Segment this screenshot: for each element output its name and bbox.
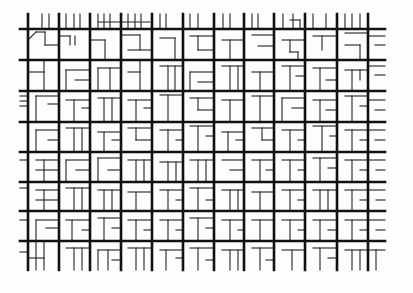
background: [0, 0, 413, 293]
abstract-grid-drawing: [0, 0, 413, 293]
